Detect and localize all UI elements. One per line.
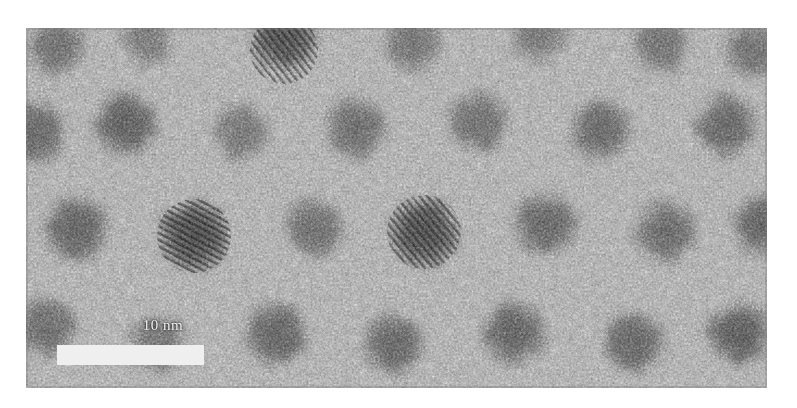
tem-micrograph-image: 10 nm [26,28,767,388]
tem-figure: 10 nm [0,0,797,408]
micrograph-canvas [26,28,767,388]
atomic-speckle-2 [26,28,767,388]
